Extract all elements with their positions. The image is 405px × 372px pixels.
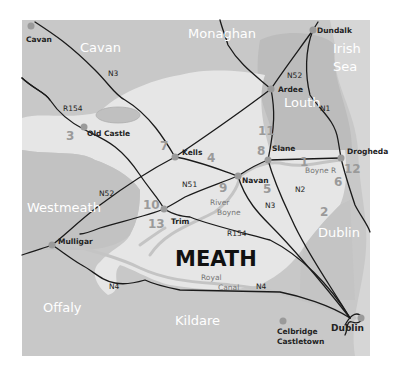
meath-map: Cavan Monaghan Irish Sea Louth Westmeath… bbox=[0, 0, 405, 372]
site-number-2[interactable]: 2 bbox=[320, 205, 328, 219]
road-label-n1: N1 bbox=[320, 104, 331, 113]
sea-label-irish: Irish bbox=[333, 41, 361, 56]
county-label-westmeath: Westmeath bbox=[27, 200, 101, 215]
road-label-n2: N2 bbox=[295, 185, 306, 194]
lake bbox=[96, 107, 140, 123]
site-number-4[interactable]: 4 bbox=[207, 151, 215, 165]
site-number-6[interactable]: 6 bbox=[334, 175, 342, 189]
water-label-boyne: Boyne bbox=[217, 208, 241, 217]
road-label-r154-south: R154 bbox=[227, 229, 247, 238]
county-label-kildare: Kildare bbox=[175, 313, 220, 328]
site-number-11[interactable]: 11 bbox=[258, 124, 275, 138]
site-number-12[interactable]: 12 bbox=[344, 162, 361, 176]
site-number-10[interactable]: 10 bbox=[143, 198, 160, 212]
road-label-r154-west: R154 bbox=[63, 104, 83, 113]
county-label-louth: Louth bbox=[284, 95, 321, 110]
town-label-dundalk: Dundalk bbox=[317, 26, 353, 35]
water-label-canal: Canal bbox=[218, 283, 239, 292]
site-number-3[interactable]: 3 bbox=[66, 129, 74, 143]
site-number-7[interactable]: 7 bbox=[160, 139, 168, 153]
town-label-cavan: Cavan bbox=[26, 35, 52, 44]
county-label-offaly: Offaly bbox=[43, 300, 82, 315]
sea-label-sea: Sea bbox=[333, 59, 357, 74]
town-label-old-castle: Old Castle bbox=[87, 129, 130, 138]
town-label-drogheda: Drogheda bbox=[347, 147, 388, 156]
road-label-n51: N51 bbox=[182, 180, 197, 189]
town-label-slane: Slane bbox=[272, 144, 295, 153]
town-label-ardee: Ardee bbox=[278, 85, 303, 94]
road-label-n4-east: N4 bbox=[256, 282, 267, 291]
town-label-mulligar: Mulligar bbox=[58, 237, 93, 246]
county-label-monaghan: Monaghan bbox=[188, 26, 256, 41]
road-label-n52-west: N52 bbox=[99, 189, 114, 198]
town-label-castletown: Castletown bbox=[277, 337, 324, 346]
site-number-8[interactable]: 8 bbox=[257, 144, 265, 158]
town-label-dublin: Dublin bbox=[331, 323, 364, 333]
town-label-celbridge: Celbridge bbox=[277, 327, 318, 336]
road-label-n52-north: N52 bbox=[287, 71, 302, 80]
site-number-13[interactable]: 13 bbox=[148, 217, 165, 231]
water-label-river: River bbox=[210, 198, 230, 207]
road-label-n3-south: N3 bbox=[265, 201, 276, 210]
town-label-navan: Navan bbox=[242, 176, 269, 185]
site-number-9[interactable]: 9 bbox=[219, 181, 227, 195]
water-label-boyne-r: Boyne R bbox=[305, 166, 336, 175]
town-label-kells: Kells bbox=[182, 148, 203, 157]
county-label-dublin: Dublin bbox=[318, 225, 360, 240]
water-label-royal: Royal bbox=[201, 273, 222, 282]
map-title: MEATH bbox=[175, 247, 257, 271]
county-label-cavan: Cavan bbox=[80, 40, 121, 55]
town-label-trim: Trim bbox=[171, 217, 190, 226]
road-label-n4-west: N4 bbox=[109, 282, 120, 291]
road-label-n3-north: N3 bbox=[108, 69, 119, 78]
